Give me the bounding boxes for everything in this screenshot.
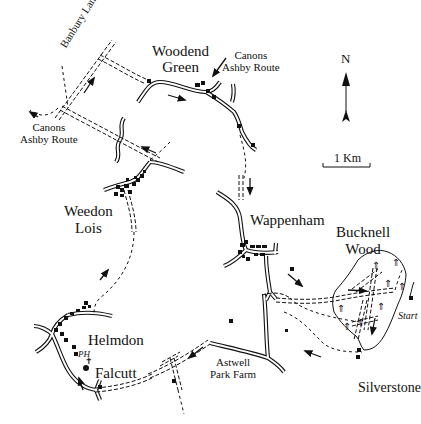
place-woodend-green-line2: Green (152, 60, 209, 75)
astwell-line2: Park Farm (210, 369, 256, 381)
place-weedon-lois-line1: Weedon (64, 204, 113, 219)
compass-north-label: N (341, 52, 350, 65)
svg-text:⇑: ⇑ (372, 260, 380, 271)
canons-ashby-left-line1: Canons (20, 122, 78, 134)
place-bucknell-wood: Bucknell Wood (336, 225, 390, 257)
church-icon: ✝ (85, 357, 93, 366)
canons-ashby-left-line2: Ashby Route (20, 134, 78, 146)
astwell-line1: Astwell (210, 357, 256, 369)
place-falcutt: Falcutt (95, 366, 137, 381)
scale-bar-label: 1 Km (334, 152, 361, 164)
start-marker-track (410, 282, 414, 296)
canons-ashby-top-line1: Canons (222, 50, 280, 62)
place-woodend-green: Woodend Green (152, 44, 209, 75)
place-bucknell-wood-line1: Bucknell (336, 225, 390, 240)
svg-text:⇑: ⇑ (337, 303, 345, 314)
canons-ashby-route-left: Canons Ashby Route (20, 122, 78, 145)
place-bucknell-wood-line2: Wood (336, 242, 390, 257)
place-silverstone: Silverstone (358, 381, 421, 395)
svg-text:⇑: ⇑ (377, 301, 385, 312)
svg-text:⇑: ⇑ (398, 281, 406, 292)
svg-text:⇑: ⇑ (384, 278, 392, 289)
place-woodend-green-line1: Woodend (152, 44, 209, 59)
svg-text:⇑: ⇑ (357, 317, 365, 328)
place-wappenham: Wappenham (250, 213, 325, 228)
place-astwell-park-farm: Astwell Park Farm (210, 357, 256, 380)
place-weedon-lois: Weedon Lois (64, 204, 113, 236)
north-arrow-icon (342, 72, 350, 122)
svg-text:⇑: ⇑ (392, 257, 400, 268)
place-weedon-lois-line2: Lois (64, 221, 113, 236)
place-helmdon: Helmdon (88, 333, 144, 348)
start-label: Start (398, 311, 417, 321)
svg-text:⇑: ⇑ (343, 321, 351, 332)
canons-ashby-top-line2: Ashby Route (222, 62, 280, 74)
canons-ashby-route-top: Canons Ashby Route (222, 50, 280, 73)
